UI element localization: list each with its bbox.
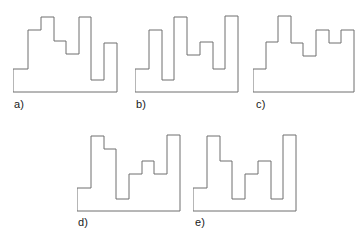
shape-option-c[interactable] bbox=[253, 12, 355, 93]
shape-option-e[interactable] bbox=[193, 131, 297, 212]
shape-outline-e bbox=[193, 135, 296, 211]
shape-option-b[interactable] bbox=[135, 12, 239, 93]
figure-canvas: a) b) c) d) e) bbox=[0, 0, 363, 246]
shape-option-d[interactable] bbox=[77, 131, 181, 212]
shape-label-c: c) bbox=[256, 99, 266, 110]
shape-outline-b bbox=[135, 16, 238, 92]
shape-outline-a bbox=[13, 17, 117, 92]
shape-polygon-d bbox=[77, 131, 181, 212]
shape-polygon-c bbox=[253, 12, 355, 93]
shape-polygon-e bbox=[193, 131, 297, 212]
shape-option-a[interactable] bbox=[13, 12, 118, 93]
shape-label-d: d) bbox=[78, 217, 88, 228]
shape-polygon-b bbox=[135, 12, 239, 93]
shape-outline-d bbox=[77, 135, 180, 211]
shape-polygon-a bbox=[13, 12, 118, 93]
shape-label-b: b) bbox=[136, 99, 146, 110]
shape-label-a: a) bbox=[14, 99, 24, 110]
shape-outline-c bbox=[253, 16, 354, 92]
shape-label-e: e) bbox=[195, 217, 205, 228]
